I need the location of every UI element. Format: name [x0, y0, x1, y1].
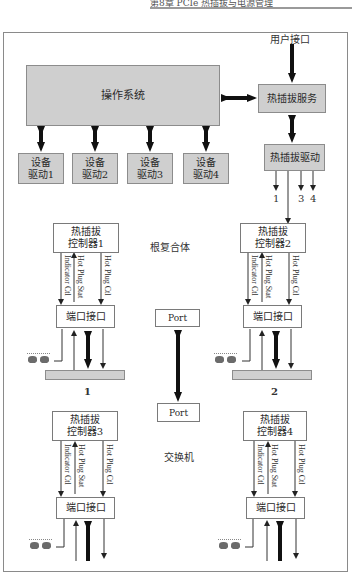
root-complex-label: 根复合体: [150, 242, 190, 254]
led-indicator-icon: [215, 356, 224, 363]
user-interface-label: 用户接口: [270, 34, 310, 46]
device-driver-2: 设备 驱动2: [72, 153, 118, 184]
device-driver-1: 设备 驱动1: [18, 153, 64, 184]
device-driver-2-line1: 设备: [85, 157, 105, 169]
hotplug-ctl-2: Hot Plug Ctl: [291, 255, 300, 295]
led-indicator-icon: [30, 542, 39, 549]
hotplug-stat-3: Hot Plug Stat: [77, 444, 86, 487]
controller-1-line1: 热插拔: [71, 226, 101, 238]
device-driver-3: 设备 驱动3: [127, 153, 173, 184]
led-indicator-icon: [28, 356, 37, 363]
controller-1-line2: 控制器1: [68, 238, 104, 250]
root-port-label: Port: [168, 313, 187, 323]
port-interface-4-label: 端口接口: [256, 502, 296, 514]
hotplug-ctl-3: Hot Plug Ctl: [105, 444, 114, 484]
controller-3-line2: 控制器3: [67, 426, 103, 438]
hotplug-stat-2: Hot Plug Stat: [264, 255, 273, 298]
led-indicator-icon: [40, 356, 49, 363]
controller-3-line1: 热插拔: [70, 414, 100, 426]
hotplug-driver-label: 热插拔驱动: [270, 152, 320, 164]
os-label: 操作系统: [101, 89, 145, 102]
switch-port-box: Port: [157, 403, 200, 422]
controller-4-line1: 热插拔: [260, 414, 290, 426]
port-interface-1-label: 端口接口: [66, 311, 106, 323]
hotplug-controller-1: 热插拔 控制器1: [53, 223, 119, 253]
led-indicator-icon: [219, 542, 228, 549]
port-interface-3: 端口接口: [56, 497, 115, 519]
hotplug-controller-4: 热插拔 控制器4: [243, 411, 307, 441]
port-interface-4: 端口接口: [246, 497, 305, 519]
device-driver-2-line2: 驱动2: [82, 169, 108, 181]
controller-2-line2: 控制器2: [255, 238, 291, 250]
device-driver-3-line1: 设备: [140, 157, 160, 169]
slot-2-label: 2: [271, 386, 278, 397]
driver-output-3: 3: [298, 193, 304, 204]
device-driver-3-line2: 驱动3: [137, 169, 163, 181]
hotplug-stat-4: Hot Plug Stat: [270, 444, 279, 487]
driver-output-1: 1: [273, 193, 279, 204]
port-interface-2: 端口接口: [243, 305, 302, 328]
hotplug-service-box: 热插拔服务: [258, 84, 326, 113]
port-interface-3-label: 端口接口: [66, 502, 106, 514]
indicator-ctl-2: Indicator Ctl: [250, 255, 259, 296]
root-port-box: Port: [155, 309, 200, 327]
device-driver-1-line1: 设备: [31, 157, 51, 169]
hotplug-driver-box: 热插拔驱动: [264, 144, 325, 171]
hotplug-controller-2: 热插拔 控制器2: [240, 223, 306, 253]
indicator-ctl-3: Indicator Ctl: [63, 444, 72, 485]
device-driver-4-line2: 驱动4: [193, 169, 219, 181]
switch-port-label: Port: [169, 408, 188, 418]
device-driver-1-line2: 驱动1: [28, 169, 54, 181]
slot-2-bar: [232, 370, 312, 380]
indicator-ctl-1: Indicator Ctl: [63, 255, 72, 296]
device-driver-4-line1: 设备: [196, 157, 216, 169]
hotplug-stat-1: Hot Plug Stat: [76, 255, 85, 298]
slot-1-label: 1: [84, 386, 91, 397]
hotplug-service-label: 热插拔服务: [267, 93, 317, 105]
port-interface-1: 端口接口: [56, 305, 115, 328]
driver-output-4: 4: [310, 193, 316, 204]
slot-1-bar: [45, 370, 125, 380]
controller-2-line1: 热插拔: [258, 226, 288, 238]
controller-4-line2: 控制器4: [257, 426, 293, 438]
indicator-ctl-4: Indicator Ctl: [256, 444, 265, 485]
device-driver-4: 设备 驱动4: [183, 153, 229, 184]
port-interface-2-label: 端口接口: [253, 311, 293, 323]
led-indicator-icon: [227, 356, 236, 363]
hotplug-controller-3: 热插拔 控制器3: [52, 411, 118, 441]
hotplug-ctl-1: Hot Plug Ctl: [103, 255, 112, 295]
switch-label: 交换机: [164, 452, 194, 464]
os-box: 操作系统: [26, 65, 220, 126]
led-indicator-icon: [231, 542, 240, 549]
led-indicator-icon: [42, 542, 51, 549]
hotplug-ctl-4: Hot Plug Ctl: [297, 444, 306, 484]
